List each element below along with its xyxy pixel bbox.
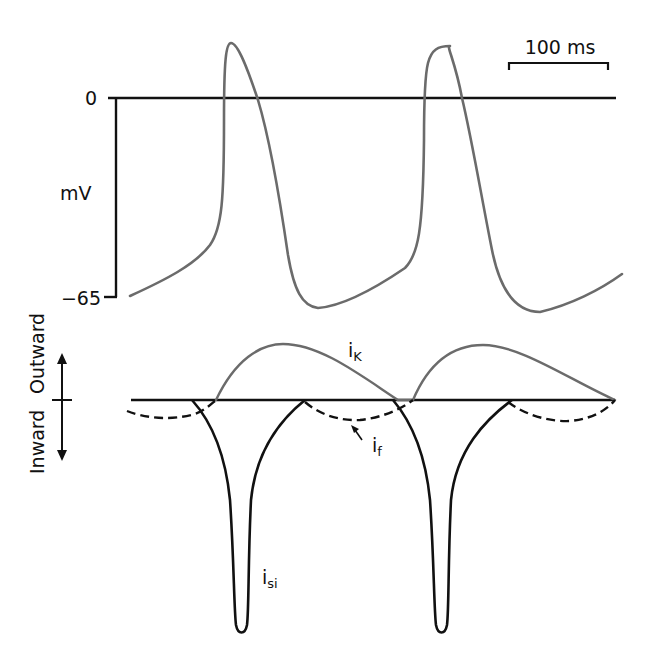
inward-arrow-icon xyxy=(57,450,67,461)
if-label: if xyxy=(372,434,382,459)
voltage-unit-label: mV xyxy=(60,182,92,204)
outward-label: Outward xyxy=(26,313,48,394)
tick-label-0: 0 xyxy=(85,87,97,109)
pacemaker-figure: 0 −65 mV 100 ms Outward Inward iK xyxy=(0,0,646,660)
action-potential-trace xyxy=(130,43,622,312)
if-pointer-arrow-icon xyxy=(351,425,359,433)
ik-current-trace xyxy=(216,344,615,400)
outward-arrow-icon xyxy=(57,353,67,364)
time-scale-label: 100 ms xyxy=(525,36,596,58)
current-panel: Outward Inward iK if isi xyxy=(26,313,615,633)
time-scale-bar xyxy=(509,63,608,70)
voltage-panel: 0 −65 mV 100 ms xyxy=(60,36,622,312)
isi-current-trace xyxy=(192,400,512,633)
tick-label-minus65: −65 xyxy=(61,287,101,309)
ik-label: iK xyxy=(348,339,362,364)
inward-label: Inward xyxy=(26,410,48,474)
isi-label: isi xyxy=(262,566,278,591)
if-pointer-line xyxy=(355,430,362,440)
